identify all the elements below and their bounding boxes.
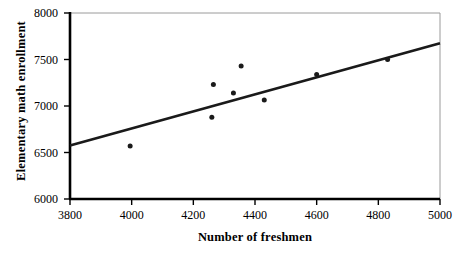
data-point: [262, 97, 267, 102]
plot-frame: [70, 13, 440, 199]
data-point: [209, 115, 214, 120]
x-axis-tick-label: 4600: [294, 208, 340, 223]
scatter-chart: Elementary math enrollment Number of fre…: [0, 0, 463, 258]
x-axis-title: Number of freshmen: [70, 230, 440, 245]
x-axis-tick-label: 4000: [109, 208, 155, 223]
data-point: [128, 143, 133, 148]
x-axis-tick-label: 4200: [170, 208, 216, 223]
data-point: [314, 72, 319, 77]
trend-line: [70, 43, 440, 145]
y-axis-tick-label: 8000: [16, 6, 58, 20]
x-axis-tick-label: 3800: [47, 208, 93, 223]
y-axis-tick-label: 7000: [16, 99, 58, 113]
y-axis-tick-label: 6500: [16, 146, 58, 160]
x-axis-tick-label: 5000: [417, 208, 463, 223]
x-axis-tick-label: 4400: [232, 208, 278, 223]
data-point: [385, 57, 390, 62]
data-point: [231, 90, 236, 95]
y-axis-tick-label: 6000: [16, 192, 58, 206]
data-point: [211, 82, 216, 87]
x-axis-tick-label: 4800: [355, 208, 401, 223]
data-point: [239, 64, 244, 69]
y-axis-tick-label: 7500: [16, 53, 58, 67]
